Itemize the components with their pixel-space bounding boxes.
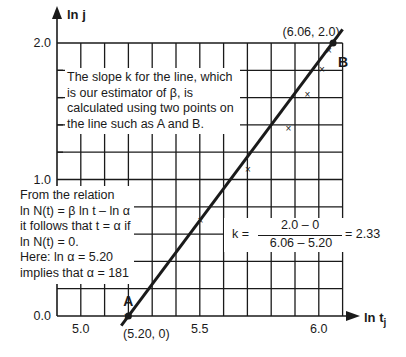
data-point-x-marker: ×	[197, 215, 203, 226]
slope-note: The slope k for the line, which is our e…	[65, 68, 240, 134]
x-axis-arrow-icon	[346, 311, 360, 321]
y-tick-label: 1.0	[34, 173, 51, 187]
slope-formula: k = 2.0 – 0 6.06 – 5.20 = 2.33	[224, 218, 354, 252]
relation-note-line: it follows that t = α if	[20, 219, 130, 235]
point-b-label: B	[338, 54, 348, 70]
data-point-x-marker: ×	[326, 45, 332, 56]
data-point-x-marker: ×	[245, 164, 251, 175]
x-axis-label: ln tj	[364, 310, 387, 328]
x-tick-label: 5.0	[72, 322, 89, 336]
relation-note-line: implies that α = 181	[20, 266, 130, 282]
x-tick-label: 5.5	[191, 322, 208, 336]
point-b-coordinates: (6.06, 2.0)	[283, 25, 340, 39]
relation-note: From the relation ln N(t) = β ln t – ln …	[18, 186, 134, 284]
point-a-coordinates: (5.20, 0)	[123, 327, 170, 341]
data-point-x-marker: ×	[286, 123, 292, 134]
relation-note-line: ln N(t) = 0.	[20, 235, 130, 251]
point-a-dot-icon	[125, 313, 132, 320]
y-tick-label: 2.0	[34, 36, 51, 50]
x-tick-label: 6.0	[310, 322, 327, 336]
y-tick-label: 0.0	[34, 309, 51, 323]
formula-result: = 2.33	[345, 227, 380, 243]
relation-note-line: ln N(t) = β ln t – ln α	[20, 204, 130, 220]
slope-note-line: calculated using two points on	[67, 101, 234, 117]
point-a-label: A	[123, 293, 133, 309]
point-b-dot-icon	[330, 40, 337, 47]
slope-note-line: The slope k for the line, which	[67, 70, 234, 86]
formula-lhs: k =	[232, 227, 249, 243]
relation-note-line: From the relation	[20, 188, 130, 204]
slope-note-line: the line such as A and B.	[67, 117, 234, 133]
y-axis-arrow-icon	[52, 6, 62, 19]
relation-note-line: Here: ln α = 5.20	[20, 250, 130, 266]
formula-numerator: 2.0 – 0	[268, 218, 332, 234]
formula-denominator: 6.06 – 5.20	[260, 236, 342, 252]
y-axis-label: ln j	[67, 7, 86, 22]
slope-note-line: is our estimator of β, is	[67, 86, 234, 102]
weibull-plot: 0.01.02.05.05.56.0 ××××××× A(5.20, 0)B(6…	[0, 0, 406, 357]
data-point-x-marker: ×	[305, 89, 311, 100]
data-point-x-marker: ×	[319, 64, 325, 75]
